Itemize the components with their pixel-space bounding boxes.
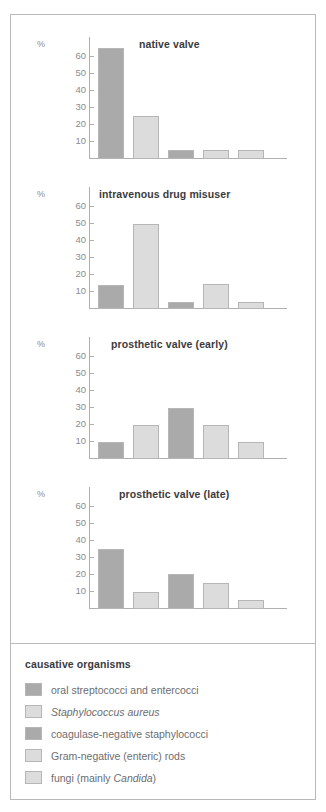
y-tick-label: 60: [64, 50, 86, 61]
legend-swatch: [25, 683, 42, 696]
bar-group: [90, 493, 288, 609]
legend-swatch: [25, 771, 42, 784]
y-tick-label: 50: [64, 367, 86, 378]
y-tick-label: 10: [64, 135, 86, 146]
chart-panel-intravenous-drug-misuser: % intravenous drug misuser 102030405060: [11, 181, 317, 331]
bar: [133, 592, 159, 609]
bar: [238, 302, 264, 309]
y-tick-label: 40: [64, 534, 86, 545]
legend-item: oral streptococci and entercocci: [25, 681, 301, 698]
legend-item: coagulase-negative staphylococci: [25, 725, 301, 742]
bar: [133, 425, 159, 459]
legend-swatch: [25, 705, 42, 718]
chart-panel-prosthetic-valve-late: % prosthetic valve (late) 102030405060: [11, 481, 317, 631]
bar: [203, 284, 229, 309]
y-tick-label: 40: [64, 234, 86, 245]
y-tick-label: 30: [64, 251, 86, 262]
bar: [168, 150, 194, 159]
bar: [203, 150, 229, 159]
y-tick-label: 30: [64, 101, 86, 112]
legend-label: coagulase-negative staphylococci: [51, 728, 208, 740]
legend-label: Gram-negative (enteric) rods: [51, 750, 185, 762]
y-tick-label: 30: [64, 551, 86, 562]
plot-area: 102030405060: [89, 337, 289, 465]
bar: [203, 425, 229, 459]
figure-frame: % native valve 102030405060 % intravenou…: [10, 14, 316, 800]
bar: [238, 600, 264, 609]
legend-label: fungi (mainly Candida): [51, 772, 156, 784]
legend: causative organisms oral streptococci an…: [11, 644, 315, 799]
y-tick-label: 10: [64, 285, 86, 296]
y-tick-label: 50: [64, 517, 86, 528]
bar: [168, 302, 194, 309]
legend-item: fungi (mainly Candida): [25, 769, 301, 786]
y-tick-label: 60: [64, 500, 86, 511]
bar-group: [90, 193, 288, 309]
y-tick-label: 20: [64, 268, 86, 279]
y-tick-label: 60: [64, 350, 86, 361]
bar-group: [90, 343, 288, 459]
legend-label: Staphylococcus aureus: [51, 706, 160, 718]
bar: [98, 285, 124, 309]
bar: [133, 116, 159, 159]
y-tick-label: 30: [64, 401, 86, 412]
y-tick-label: 10: [64, 585, 86, 596]
y-tick-label: 60: [64, 200, 86, 211]
y-tick-label: 40: [64, 384, 86, 395]
bar: [203, 583, 229, 609]
legend-label: oral streptococci and entercocci: [51, 684, 199, 696]
y-axis-unit-label: %: [37, 489, 45, 499]
bar: [238, 150, 264, 159]
y-axis-unit-label: %: [37, 39, 45, 49]
legend-item-list: oral streptococci and entercocciStaphylo…: [25, 681, 301, 786]
y-tick-label: 20: [64, 118, 86, 129]
plot-area: 102030405060: [89, 187, 289, 315]
legend-item: Gram-negative (enteric) rods: [25, 747, 301, 764]
bar: [238, 442, 264, 459]
bar: [98, 549, 124, 609]
y-tick-label: 20: [64, 568, 86, 579]
plot-area: 102030405060: [89, 37, 289, 165]
bar: [98, 48, 124, 159]
chart-panel-native-valve: % native valve 102030405060: [11, 31, 317, 181]
y-axis-unit-label: %: [37, 189, 45, 199]
bar: [168, 574, 194, 609]
bar: [168, 408, 194, 459]
plot-area: 102030405060: [89, 487, 289, 615]
y-axis-unit-label: %: [37, 339, 45, 349]
legend-title: causative organisms: [25, 658, 301, 670]
y-tick-label: 10: [64, 435, 86, 446]
legend-swatch: [25, 727, 42, 740]
bar: [133, 224, 159, 309]
bar-group: [90, 43, 288, 159]
legend-item: Staphylococcus aureus: [25, 703, 301, 720]
legend-swatch: [25, 749, 42, 762]
y-tick-label: 50: [64, 67, 86, 78]
chart-panel-prosthetic-valve-early: % prosthetic valve (early) 102030405060: [11, 331, 317, 481]
y-tick-label: 40: [64, 84, 86, 95]
y-tick-label: 50: [64, 217, 86, 228]
bar: [98, 442, 124, 459]
charts-region: % native valve 102030405060 % intravenou…: [11, 15, 315, 643]
y-tick-label: 20: [64, 418, 86, 429]
